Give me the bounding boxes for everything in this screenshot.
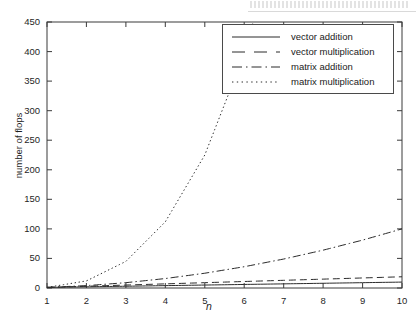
series-line-vector-multiplication (47, 277, 402, 288)
x-axis-label: n (0, 300, 418, 312)
legend-item-vector-addition[interactable]: vector addition (223, 29, 393, 44)
y-tick-450: 450 (12, 17, 40, 27)
chart-legend[interactable]: vector addition vector multiplication ma… (222, 24, 394, 94)
legend-item-matrix-addition[interactable]: matrix addition (223, 59, 393, 74)
legend-swatch-dotted-icon (230, 75, 282, 89)
legend-swatch-dashed-icon (230, 45, 282, 59)
legend-item-matrix-multiplication[interactable]: matrix multiplication (223, 74, 393, 89)
legend-swatch-solid-icon (230, 30, 282, 44)
legend-label: vector multiplication (291, 45, 374, 59)
y-tick-50: 50 (12, 253, 40, 263)
legend-item-vector-multiplication[interactable]: vector multiplication (223, 44, 393, 59)
legend-label: matrix addition (291, 60, 353, 74)
legend-label: matrix multiplication (291, 75, 374, 89)
legend-swatch-dashdot-icon (230, 60, 282, 74)
flops-complexity-chart: 450 400 350 300 250 200 150 100 50 0 1 2… (0, 0, 418, 319)
y-tick-100: 100 (12, 224, 40, 234)
y-tick-400: 400 (12, 47, 40, 57)
y-axis-label: number of flops (13, 86, 24, 206)
legend-label: vector addition (291, 30, 353, 44)
